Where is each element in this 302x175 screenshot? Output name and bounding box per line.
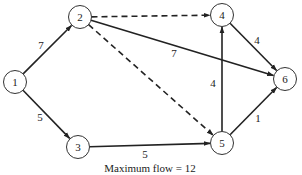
node-label: 4 — [219, 9, 225, 21]
edges-group — [23, 15, 277, 147]
node-3: 3 — [67, 136, 90, 159]
edge-2-6 — [91, 20, 274, 75]
node-2: 2 — [69, 6, 92, 29]
edge-1-2 — [23, 25, 71, 73]
node-label: 3 — [75, 141, 81, 153]
edge-flow-label-2-6: 7 — [171, 47, 177, 59]
edge-flow-label-5-6: 1 — [255, 112, 261, 124]
caption-max-flow: Maximum flow = 12 — [104, 162, 195, 174]
edge-flow-label-3-5: 5 — [142, 148, 148, 160]
node-label: 5 — [219, 137, 225, 149]
edge-flow-label-5-4: 4 — [210, 77, 216, 89]
max-flow-diagram: 7575441 123456 Maximum flow = 12 — [0, 0, 302, 175]
node-1: 1 — [4, 71, 27, 94]
edge-5-6 — [230, 88, 277, 135]
edge-2-5 — [89, 25, 213, 135]
node-label: 2 — [77, 11, 83, 23]
node-label: 1 — [12, 76, 18, 88]
edge-flow-label-1-2: 7 — [38, 39, 44, 51]
node-6: 6 — [274, 68, 297, 91]
edge-3-5 — [89, 143, 210, 146]
edge-flow-label-4-6: 4 — [254, 34, 260, 46]
edge-2-4 — [91, 15, 210, 17]
edge-4-6 — [230, 23, 277, 70]
edge-flow-label-1-3: 5 — [37, 111, 43, 123]
node-label: 6 — [282, 73, 288, 85]
nodes-group: 123456 — [4, 4, 297, 159]
node-5: 5 — [211, 132, 234, 155]
edge-1-3 — [23, 90, 70, 138]
node-4: 4 — [211, 4, 234, 27]
